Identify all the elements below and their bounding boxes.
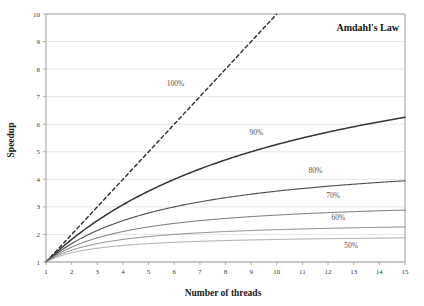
x-tick-label: 2: [70, 268, 74, 276]
x-tick-label: 12: [325, 268, 333, 276]
y-tick-label: 5: [37, 148, 41, 156]
y-tick-label: 9: [37, 38, 41, 46]
x-tick-label: 5: [147, 268, 151, 276]
series-label-70%: 70%: [326, 191, 340, 200]
x-tick-label: 14: [376, 268, 384, 276]
x-tick-label: 9: [249, 268, 253, 276]
x-tick-label: 15: [402, 268, 410, 276]
series-label-100%: 100%: [167, 79, 185, 88]
series-label-50%: 50%: [344, 241, 358, 250]
y-axis-title: Speedup: [6, 123, 16, 158]
chart-background: [0, 0, 424, 306]
x-tick-label: 1: [44, 268, 48, 276]
series-label-60%: 60%: [331, 213, 345, 222]
y-tick-label: 1: [37, 259, 41, 267]
y-tick-label: 2: [37, 231, 41, 239]
y-tick-label: 6: [37, 121, 41, 129]
series-label-90%: 90%: [249, 128, 263, 137]
x-tick-label: 13: [350, 268, 358, 276]
x-tick-label: 6: [172, 268, 176, 276]
x-tick-label: 4: [121, 268, 125, 276]
y-tick-label: 8: [37, 66, 41, 74]
x-tick-label: 11: [299, 268, 306, 276]
chart-title: Amdahl's Law: [336, 22, 399, 33]
y-tick-label: 4: [37, 176, 41, 184]
x-tick-label: 3: [96, 268, 100, 276]
amdahls-law-chart: 123456789101112131415 12345678910 100%90…: [0, 0, 424, 306]
y-tick-label: 7: [37, 93, 41, 101]
chart-container: 123456789101112131415 12345678910 100%90…: [0, 0, 424, 306]
x-tick-label: 8: [224, 268, 228, 276]
series-label-80%: 80%: [308, 166, 322, 175]
x-axis-title: Number of threads: [185, 288, 262, 298]
x-tick-label: 7: [198, 268, 202, 276]
y-tick-label: 3: [37, 203, 41, 211]
x-tick-label: 10: [273, 268, 281, 276]
y-tick-label: 10: [33, 11, 41, 19]
